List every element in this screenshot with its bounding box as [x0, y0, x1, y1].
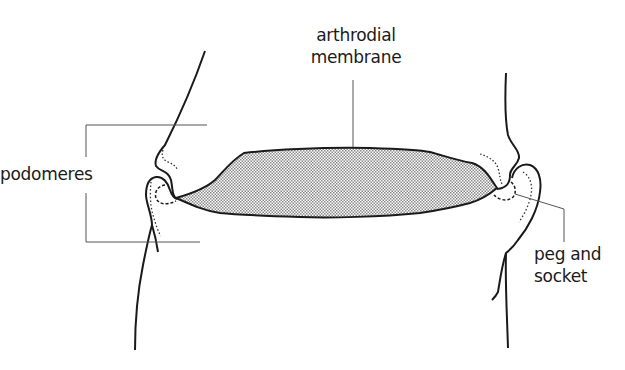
arthrodial-label-line2: membrane: [296, 46, 416, 68]
right-lower-branch: [506, 253, 508, 348]
left-upper-socket-dots: [162, 150, 177, 169]
peg-label-line1: peg and: [534, 243, 601, 265]
right-upper-podomere-outline: [497, 73, 519, 189]
arthrodial-membrane-label: arthrodial membrane: [296, 24, 416, 68]
right-peg-dashed: [494, 182, 515, 200]
arthrodial-label-line1: arthrodial: [296, 24, 416, 46]
peg-label-line2: socket: [534, 265, 601, 287]
left-lower-branch: [152, 225, 158, 252]
arthrodial-membrane-shape: [176, 148, 497, 218]
podomeres-bracket: [86, 125, 207, 242]
peg-and-socket-label: peg and socket: [534, 243, 601, 287]
podomeres-label: podomeres: [0, 163, 93, 185]
